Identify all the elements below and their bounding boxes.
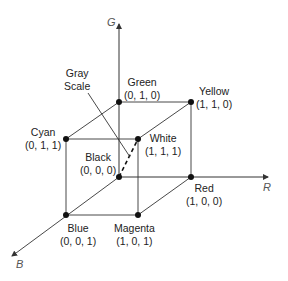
- vertex-red: [188, 174, 194, 180]
- label-yellow: Yellow (1, 1, 0): [196, 85, 232, 111]
- label-black: Black (0, 0, 0): [80, 151, 116, 177]
- blue-coords: (0, 0, 1): [60, 235, 96, 248]
- black-name: Black: [80, 151, 116, 164]
- edge-red-magenta: [138, 177, 191, 215]
- green-name: Green: [124, 76, 160, 89]
- magenta-coords: (1, 0, 1): [114, 235, 155, 248]
- vertex-black: [116, 174, 122, 180]
- r-axis-label: R: [263, 181, 271, 193]
- red-name: Red: [186, 182, 222, 195]
- white-coords: (1, 1, 1): [145, 145, 181, 158]
- blue-name: Blue: [60, 222, 96, 235]
- black-coords: (0, 0, 0): [80, 164, 116, 177]
- vertex-green: [116, 99, 122, 105]
- vertex-cyan: [63, 136, 69, 142]
- gray-scale-line1: Gray: [64, 67, 90, 80]
- yellow-coords: (1, 1, 0): [196, 98, 232, 111]
- green-coords: (0, 1, 0): [124, 89, 160, 102]
- label-green: Green (0, 1, 0): [124, 76, 160, 102]
- yellow-name: Yellow: [196, 85, 232, 98]
- cyan-name: Cyan: [25, 126, 61, 139]
- rgb-color-cube-diagram: G R B Gray Scale Green (0, 1, 0) Yellow …: [0, 0, 288, 281]
- gray-scale-label: Gray Scale: [64, 67, 90, 93]
- vertex-magenta: [135, 212, 141, 218]
- red-coords: (1, 0, 0): [186, 195, 222, 208]
- edge-green-cyan: [66, 102, 119, 139]
- label-cyan: Cyan (0, 1, 1): [25, 126, 61, 152]
- label-blue: Blue (0, 0, 1): [60, 222, 96, 248]
- vertex-white: [135, 136, 141, 142]
- label-magenta: Magenta (1, 0, 1): [114, 222, 155, 248]
- gray-scale-leader: [88, 93, 130, 157]
- white-name: White: [145, 132, 181, 145]
- gray-scale-line2: Scale: [64, 80, 90, 93]
- label-white: White (1, 1, 1): [145, 132, 181, 158]
- vertex-yellow: [188, 99, 194, 105]
- label-red: Red (1, 0, 0): [186, 182, 222, 208]
- magenta-name: Magenta: [114, 222, 155, 235]
- g-axis-label: G: [107, 16, 116, 28]
- vertex-blue: [63, 212, 69, 218]
- cyan-coords: (0, 1, 1): [25, 139, 61, 152]
- b-axis-label: B: [16, 258, 23, 270]
